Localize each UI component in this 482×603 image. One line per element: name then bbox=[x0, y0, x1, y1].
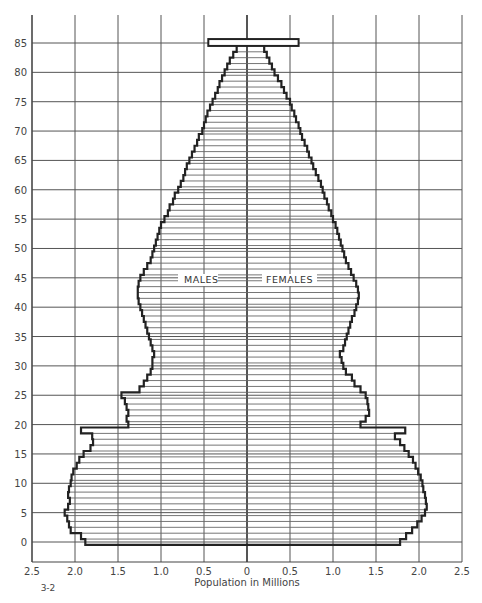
y-tick-label: 50 bbox=[14, 243, 27, 254]
y-tick-label: 0 bbox=[21, 537, 27, 548]
x-tick-label: 1.0 bbox=[325, 566, 341, 577]
x-tick-label: 0.5 bbox=[282, 566, 298, 577]
x-tick-label: 2.5 bbox=[454, 566, 470, 577]
y-tick-label: 75 bbox=[14, 97, 27, 108]
y-tick-label: 10 bbox=[14, 478, 27, 489]
y-tick-label: 30 bbox=[14, 361, 27, 372]
y-tick-label: 45 bbox=[14, 273, 27, 284]
y-tick-label: 35 bbox=[14, 332, 27, 343]
x-tick-label: 0 bbox=[244, 566, 250, 577]
y-tick-label: 65 bbox=[14, 155, 27, 166]
males-label: MALES bbox=[184, 274, 219, 285]
y-tick-label: 5 bbox=[21, 508, 27, 519]
y-tick-label: 70 bbox=[14, 126, 27, 137]
females-label: FEMALES bbox=[266, 274, 313, 285]
x-tick-label: 2.0 bbox=[411, 566, 427, 577]
x-tick-label: 1.5 bbox=[110, 566, 126, 577]
population-pyramid-chart: 05101520253035404550556065707580852.52.0… bbox=[0, 0, 482, 603]
y-tick-label: 25 bbox=[14, 390, 27, 401]
y-tick-label: 55 bbox=[14, 214, 27, 225]
y-tick-label: 20 bbox=[14, 420, 27, 431]
x-tick-label: 0.5 bbox=[196, 566, 212, 577]
y-tick-label: 15 bbox=[14, 449, 27, 460]
pyramid-outline bbox=[65, 46, 427, 545]
y-tick-label: 60 bbox=[14, 185, 27, 196]
x-axis-title: Population in Millions bbox=[194, 577, 299, 588]
x-tick-label: 2.5 bbox=[24, 566, 40, 577]
y-tick-label: 85 bbox=[14, 38, 27, 49]
y-tick-label: 40 bbox=[14, 302, 27, 313]
bars bbox=[65, 39, 427, 545]
x-tick-label: 1.0 bbox=[153, 566, 169, 577]
figure-number: 3-2 bbox=[41, 583, 56, 593]
x-tick-label: 1.5 bbox=[368, 566, 384, 577]
y-tick-label: 80 bbox=[14, 67, 27, 78]
x-tick-label: 2.0 bbox=[67, 566, 83, 577]
